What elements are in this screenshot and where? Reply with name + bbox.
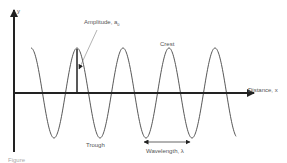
amplitude-label: Amplitude, a0 [84, 19, 120, 27]
amplitude-label-text: Amplitude, a [84, 19, 117, 25]
amplitude-subscript: 0 [117, 22, 119, 27]
y-axis-label: y [17, 8, 20, 14]
wavelength-label: Wavelength, λ [146, 148, 184, 154]
crest-label: Crest [160, 41, 174, 47]
x-axis-label: Distance, x [248, 87, 278, 93]
figure-caption: Figure [8, 157, 25, 163]
trough-label: Trough [86, 142, 105, 148]
wave-diagram [0, 0, 287, 163]
